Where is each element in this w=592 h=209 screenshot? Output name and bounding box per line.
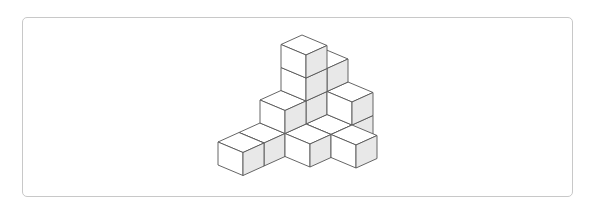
cube-stack-diagram: [0, 0, 592, 209]
cubes-group: [218, 35, 377, 176]
